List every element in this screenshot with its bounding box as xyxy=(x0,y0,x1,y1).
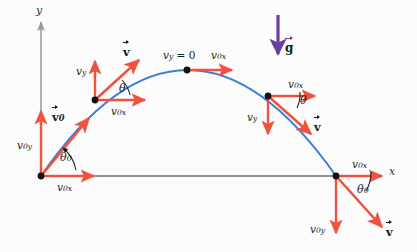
launch-angle-label: θ0 xyxy=(60,152,72,163)
launch-v0-resultant-label: v0 xyxy=(52,112,64,124)
x-axis-label: x xyxy=(389,166,395,177)
landing-v0x-label: v0x xyxy=(352,159,367,170)
descending-angle-label: θ xyxy=(300,95,307,106)
gravity-symbol: g xyxy=(285,41,293,55)
rising-v0x-label: v0x xyxy=(111,106,126,117)
launch-v0x-label: v0x xyxy=(57,182,72,193)
figure-canvas xyxy=(0,0,417,252)
landing-point-vectors xyxy=(333,172,382,233)
descending-point-vectors xyxy=(265,92,315,134)
rising-v-resultant-label: v xyxy=(123,47,130,59)
landing-point-dot xyxy=(333,173,340,180)
descending-v-resultant-label: v xyxy=(314,122,321,134)
landing-angle-label: θ0 xyxy=(357,184,369,195)
launch-v0-resultant-arrow xyxy=(41,118,89,176)
launch-v0y-label: v0y xyxy=(17,140,32,151)
apex-point-dot xyxy=(184,67,191,74)
landing-v-resultant-label: v xyxy=(386,227,393,239)
launch-point-dot xyxy=(38,173,45,180)
rising-point-dot xyxy=(92,97,99,104)
apex-vy-zero-label: vy = 0 xyxy=(163,50,195,61)
gravity-vector-label: g xyxy=(285,42,293,54)
y-axis-label: y xyxy=(36,5,42,16)
descending-v0x-label: v0x xyxy=(288,79,303,90)
rising-angle-label: θ xyxy=(119,83,126,94)
launch-point-vectors xyxy=(38,111,94,179)
apex-v0x-label: v0x xyxy=(211,50,226,61)
descending-vy-label: vy xyxy=(247,112,257,123)
landing-v0y-label: v0y xyxy=(310,224,325,235)
projectile-motion-figure: y x g v0y v0x v0 θ0 vy v0x v θ vy = 0 v0… xyxy=(0,0,417,252)
descending-point-dot xyxy=(265,93,272,100)
rising-vy-label: vy xyxy=(76,66,86,77)
